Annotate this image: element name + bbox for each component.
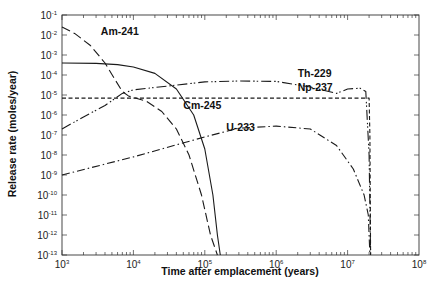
series-line-u-233	[62, 126, 370, 255]
y-tick-label: 10-3	[41, 50, 58, 61]
y-tick-label: 10-2	[41, 30, 58, 41]
series-labels: Am-241Cm-245Th-229Np-237U-233	[101, 25, 333, 133]
y-tick-label: 10-8	[41, 150, 58, 161]
y-tick-label: 10-6	[41, 110, 58, 121]
y-axis-title: Release rate (moles/year)	[6, 71, 18, 198]
x-tick-label: 104	[126, 259, 141, 270]
series-line-np-237	[62, 98, 371, 255]
y-tick-label: 10-1	[41, 10, 58, 21]
x-tick-label: 107	[340, 259, 355, 270]
plot-border	[62, 15, 419, 255]
series-label-cm-245: Cm-245	[183, 99, 221, 111]
y-axis-ticks: 10-110-210-310-410-510-610-710-810-910-1…	[37, 10, 419, 261]
y-tick-label: 10-12	[37, 230, 57, 241]
y-tick-label: 10-9	[41, 170, 58, 181]
series-line-am-241	[62, 27, 217, 255]
plot-frame	[62, 15, 419, 255]
series-label-u-233: U-233	[226, 121, 255, 133]
x-axis-title: Time after emplacement (years)	[161, 265, 318, 277]
series-label-th-229: Th-229	[298, 67, 332, 79]
x-axis-ticks: 103104105106107108	[55, 15, 427, 270]
y-tick-label: 10-4	[41, 70, 58, 81]
x-tick-label: 103	[55, 259, 70, 270]
series-line-cm-245	[62, 63, 220, 255]
y-tick-label: 10-10	[37, 190, 57, 201]
release-rate-chart: 103104105106107108 10-110-210-310-410-51…	[0, 0, 445, 295]
series-label-am-241: Am-241	[101, 25, 139, 37]
y-tick-label: 10-7	[41, 130, 58, 141]
y-tick-label: 10-11	[38, 210, 58, 221]
y-tick-label: 10-5	[41, 90, 58, 101]
series-label-np-237: Np-237	[298, 81, 333, 93]
x-tick-label: 108	[412, 259, 427, 270]
series-lines	[62, 27, 371, 255]
